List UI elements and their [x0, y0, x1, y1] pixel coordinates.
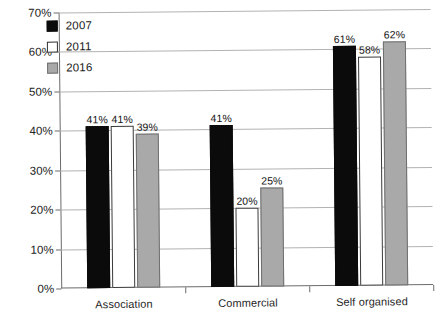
y-axis-tick [56, 249, 61, 250]
x-axis-tick [309, 286, 310, 292]
bar-association-2011: 41% [111, 126, 136, 288]
x-axis-category-label: Commercial [218, 296, 278, 309]
bar-value-label: 41% [210, 112, 231, 124]
y-axis-tick [55, 170, 60, 171]
bar-commercial-2011: 20% [236, 208, 260, 287]
chart-skew-wrapper: 0%10%20%30%40%50%60%70% 41%41%39%41%20%2… [0, 0, 441, 319]
bar-value-label: 41% [86, 113, 107, 125]
bar-self-organised-2011: 58% [358, 57, 383, 286]
legend-item-label: 2007 [66, 19, 93, 31]
bar-value-label: 25% [261, 175, 282, 187]
y-axis-label: 20% [30, 204, 53, 216]
y-axis-label: 70% [28, 7, 51, 19]
bar-self-organised-2007: 61% [333, 45, 358, 286]
legend-swatch-icon [47, 20, 58, 31]
y-axis-label: 40% [29, 125, 52, 137]
y-axis-tick [54, 91, 59, 92]
bar-chart: 0%10%20%30%40%50%60%70% 41%41%39%41%20%2… [0, 0, 441, 319]
bar-association-2007: 41% [86, 126, 111, 288]
y-axis-tick [55, 210, 60, 211]
bar-value-label: 39% [137, 121, 158, 133]
bar-self-organised-2016: 62% [383, 41, 408, 286]
y-axis-tick [56, 289, 61, 290]
y-axis-tick [55, 131, 60, 132]
y-axis-label: 30% [30, 164, 53, 176]
bar-commercial-2016: 25% [260, 188, 284, 287]
legend-item-2011: 2011 [47, 40, 93, 52]
plot-area: 0%10%20%30%40%50%60%70% 41%41%39%41%20%2… [59, 9, 434, 289]
chart-legend: 200720112016 [47, 19, 93, 73]
x-axis-tick [433, 285, 434, 291]
y-axis-label: 50% [29, 85, 52, 97]
legend-swatch-icon [47, 41, 58, 52]
y-axis-label: 0% [37, 283, 54, 295]
x-axis-category-label: Association [95, 298, 152, 311]
x-axis-category-label: Self organised [336, 295, 408, 308]
legend-item-2016: 2016 [47, 61, 93, 73]
bar-value-label: 62% [384, 28, 405, 40]
legend-item-2007: 2007 [47, 19, 93, 31]
legend-swatch-icon [47, 62, 58, 73]
bar-value-label: 58% [359, 44, 380, 56]
bar-value-label: 20% [236, 195, 257, 207]
y-axis-label: 10% [30, 243, 53, 255]
bar-value-label: 41% [111, 113, 132, 125]
x-axis-tick [185, 287, 186, 293]
y-axis-tick [54, 13, 59, 14]
bar-value-label: 61% [334, 32, 355, 44]
legend-item-label: 2011 [66, 40, 92, 52]
bar-association-2016: 39% [136, 134, 160, 288]
legend-item-label: 2016 [66, 61, 93, 73]
bar-commercial-2007: 41% [210, 125, 235, 287]
